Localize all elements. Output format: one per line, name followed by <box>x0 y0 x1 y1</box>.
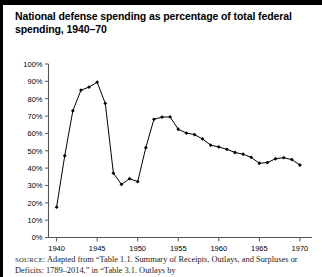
y-axis-tick-label: 100% <box>23 60 43 69</box>
x-axis-tick-label: 1950 <box>129 244 146 253</box>
data-point-marker <box>63 154 67 158</box>
x-axis-tick-label: 1965 <box>251 244 268 253</box>
data-point-marker <box>193 133 197 137</box>
series-polyline <box>57 82 300 207</box>
y-axis-tick-label: 70% <box>27 112 42 121</box>
y-axis-tick-label: 20% <box>27 199 42 208</box>
data-point-marker <box>274 157 278 161</box>
data-point-marker <box>225 147 229 151</box>
source-note: SOURCE: Adapted from “Table 1.1. Summary… <box>15 254 315 276</box>
y-axis-tick-label: 0% <box>32 233 43 242</box>
x-axis-tick-label: 1955 <box>170 244 187 253</box>
y-axis-tick-label: 50% <box>27 147 42 156</box>
y-axis-tick-label: 90% <box>27 77 42 86</box>
y-axis-tick-label: 60% <box>27 129 42 138</box>
y-axis-tick-label: 80% <box>27 95 42 104</box>
chart-canvas: 0%10%20%30%40%50%60%70%80%90%100% 194019… <box>0 0 322 252</box>
x-axis-tick-label: 1960 <box>210 244 227 253</box>
data-point-marker <box>103 101 107 105</box>
x-axis-tick-label: 1940 <box>48 244 65 253</box>
data-point-marker <box>233 151 237 155</box>
x-axis-tick-label: 1970 <box>292 244 309 253</box>
chart-figure: National defense spending as percentage … <box>0 0 322 277</box>
x-axis-tick-label: 1945 <box>89 244 106 253</box>
plot-area: 0%10%20%30%40%50%60%70%80%90%100% 194019… <box>0 0 322 252</box>
data-point-marker <box>79 88 83 92</box>
data-point-marker <box>184 131 188 135</box>
data-point-marker <box>136 180 140 184</box>
data-point-marker <box>55 205 59 209</box>
data-point-marker <box>152 117 156 121</box>
y-axis-tick-label: 40% <box>27 164 42 173</box>
data-point-marker <box>71 109 75 113</box>
y-axis-tick-label: 10% <box>27 216 42 225</box>
data-point-marker <box>266 161 270 165</box>
data-point-marker <box>144 146 148 150</box>
data-point-marker <box>241 152 245 156</box>
y-axis-tick-label: 30% <box>27 181 42 190</box>
source-label: SOURCE <box>15 256 43 263</box>
x-axis: 1940194519501955196019651970 <box>48 238 312 253</box>
y-axis: 0%10%20%30%40%50%60%70%80%90%100% <box>23 60 48 243</box>
source-body: : Adapted from “Table 1.1. Summary of Re… <box>43 255 254 264</box>
data-point-marker <box>217 145 221 149</box>
data-point-marker <box>282 156 286 160</box>
data-series-defense-spending <box>55 80 302 209</box>
data-point-marker <box>160 115 164 119</box>
